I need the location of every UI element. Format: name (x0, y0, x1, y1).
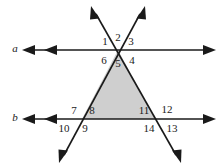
angle-label-2: 2 (115, 32, 121, 43)
angle-label-6: 6 (101, 55, 107, 66)
angle-label-14: 14 (144, 123, 155, 134)
arrowhead-transversal-upper-right (137, 6, 147, 20)
angle-label-7: 7 (71, 105, 77, 116)
angle-label-11: 11 (139, 105, 150, 116)
arrowhead-line-a-right (203, 45, 216, 55)
angle-label-4: 4 (129, 55, 135, 66)
arrowhead-line-b-left-outer (22, 114, 35, 124)
angle-label-12: 12 (162, 104, 173, 115)
angle-label-5: 5 (115, 58, 121, 69)
arrowhead-transversal-upper-left (90, 6, 100, 20)
angle-label-8: 8 (89, 105, 95, 116)
arrowhead-transversal-lower-left (59, 150, 69, 164)
arrowhead-line-a-left-inner (44, 45, 57, 55)
arrowhead-line-a-left-outer (22, 45, 35, 55)
line-label-b: b (12, 112, 18, 123)
angle-label-3: 3 (128, 36, 134, 47)
angle-label-13: 13 (167, 123, 178, 134)
angle-label-1: 1 (102, 36, 108, 47)
angle-label-10: 10 (59, 123, 70, 134)
arrowhead-line-b-left-inner (44, 114, 57, 124)
line-label-a: a (12, 43, 18, 54)
geometry-figure-svg (0, 0, 221, 168)
angle-label-9: 9 (82, 123, 88, 134)
arrowhead-line-b-right (203, 114, 216, 124)
geometry-figure: a b 1 2 3 4 5 6 7 8 9 10 11 12 13 14 (0, 0, 221, 168)
arrowhead-transversal-lower-right (172, 150, 182, 164)
